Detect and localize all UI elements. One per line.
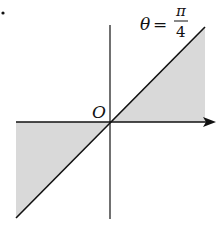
theta-symbol: θ	[140, 14, 150, 34]
stray-dot	[1, 11, 4, 14]
polar-diagram: O θ = π 4	[0, 0, 217, 225]
equals-sign: =	[153, 14, 167, 34]
origin-label: O	[92, 102, 106, 122]
fraction-denominator: 4	[176, 23, 186, 41]
fraction-numerator: π	[175, 2, 187, 20]
diagram-canvas: O θ = π 4	[0, 0, 217, 225]
